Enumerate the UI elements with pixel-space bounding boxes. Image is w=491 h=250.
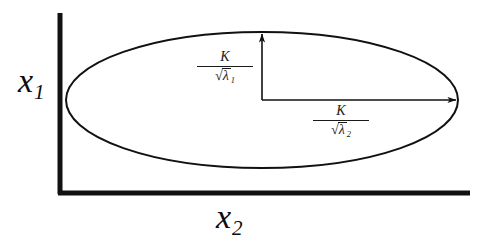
semi-major-numerator: K xyxy=(312,104,370,120)
semi-major-axis-annotation: K √λ2 xyxy=(312,104,370,139)
diagram-canvas xyxy=(0,0,491,250)
x-axis-label-subscript: 2 xyxy=(231,216,243,240)
semi-minor-axis-annotation: K √λ1 xyxy=(196,50,254,85)
ellipse-diagram: x1 x2 K √λ1 K √λ2 xyxy=(0,0,491,250)
semi-minor-lambda-subscript: 1 xyxy=(231,75,235,84)
semi-minor-lambda: λ xyxy=(222,68,231,84)
semi-minor-denominator: √λ1 xyxy=(196,67,254,85)
y-axis-label-subscript: 1 xyxy=(33,80,45,104)
semi-minor-numerator: K xyxy=(196,50,254,66)
x-axis-label-symbol: x xyxy=(216,198,231,235)
semi-major-lambda-subscript: 2 xyxy=(347,129,351,138)
y-axis-label-symbol: x xyxy=(18,62,33,99)
y-axis-label: x1 xyxy=(18,64,45,103)
axis-group xyxy=(58,13,470,194)
semi-axis-arrows xyxy=(262,34,456,100)
x-axis-label: x2 xyxy=(216,200,243,239)
semi-major-lambda: λ xyxy=(338,122,347,138)
semi-major-denominator: √λ2 xyxy=(312,121,370,139)
